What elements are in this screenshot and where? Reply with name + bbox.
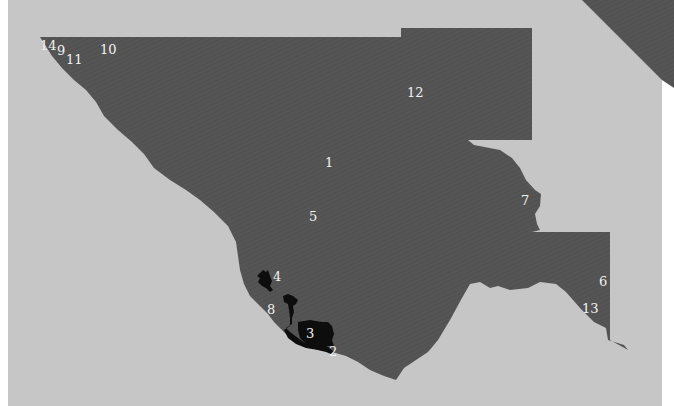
label-2: 2 xyxy=(329,344,337,359)
label-14: 14 xyxy=(40,38,57,53)
label-9: 9 xyxy=(57,43,65,58)
map-page: 1 2 3 4 5 6 7 8 9 10 11 12 13 14 xyxy=(0,0,674,406)
label-6: 6 xyxy=(599,274,607,289)
label-4: 4 xyxy=(273,269,281,284)
label-13: 13 xyxy=(582,301,599,316)
map-canvas: 1 2 3 4 5 6 7 8 9 10 11 12 13 14 xyxy=(0,0,674,406)
label-3: 3 xyxy=(306,326,314,341)
label-10: 10 xyxy=(100,42,117,57)
label-11: 11 xyxy=(66,52,83,67)
label-8: 8 xyxy=(267,302,275,317)
label-5: 5 xyxy=(309,209,317,224)
adjacent-region-corner xyxy=(582,0,674,88)
label-1: 1 xyxy=(325,155,333,170)
label-7: 7 xyxy=(521,193,529,208)
label-12: 12 xyxy=(407,85,424,100)
main-region xyxy=(40,28,628,380)
